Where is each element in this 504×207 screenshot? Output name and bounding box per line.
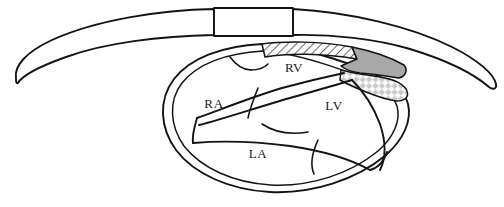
label-rv: RV [285,60,303,75]
transducer-window[interactable] [214,8,293,36]
figure-root: RV RA LV LA [0,0,504,207]
anatomical-diagram: RV RA LV LA [0,0,504,207]
label-lv: LV [325,98,342,113]
transducer-window-group[interactable] [214,8,293,36]
label-ra: RA [204,96,223,111]
label-la: LA [249,146,268,161]
